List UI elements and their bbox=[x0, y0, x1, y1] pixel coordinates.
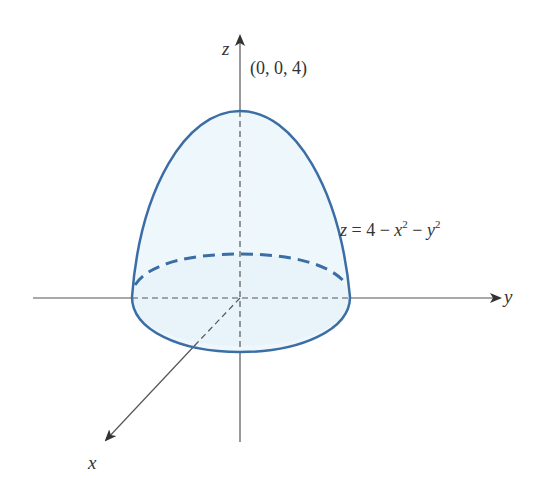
z-axis-label: z bbox=[222, 38, 229, 60]
equation-minus: − bbox=[408, 220, 427, 240]
y-axis-label: y bbox=[504, 286, 512, 308]
x-axis-visible bbox=[106, 342, 198, 440]
surface-equation: z = 4 − x2 − y2 bbox=[340, 218, 440, 241]
equation-y-var: y bbox=[427, 220, 435, 240]
apex-point-label: (0, 0, 4) bbox=[250, 58, 307, 79]
base-disc-fill bbox=[132, 254, 350, 346]
equation-lhs: z bbox=[340, 220, 347, 240]
equation-y-exp: 2 bbox=[435, 218, 441, 230]
equation-eq: = 4 − bbox=[347, 220, 394, 240]
figure-canvas: z y x (0, 0, 4) z = 4 − x2 − y2 bbox=[0, 0, 540, 500]
x-axis-label: x bbox=[88, 452, 96, 474]
